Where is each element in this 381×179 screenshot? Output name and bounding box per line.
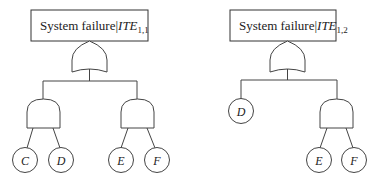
and-gate-1a <box>27 99 60 128</box>
connector <box>27 128 33 148</box>
connector <box>346 128 353 148</box>
fault-tree-diagram: System failure|ITE1,1 C D E F System fai… <box>0 0 381 179</box>
connector <box>147 128 155 148</box>
or-gate-1 <box>72 41 107 72</box>
basic-event-label-d-2: D <box>236 105 246 119</box>
connector <box>121 128 128 148</box>
and-gate-1b <box>121 99 154 128</box>
fault-tree-1: System failure|ITE1,1 C D E F <box>13 10 170 173</box>
connector <box>320 128 327 148</box>
or-gate-2 <box>270 41 305 72</box>
connector <box>53 128 60 148</box>
basic-event-label-c: C <box>21 154 30 168</box>
fault-tree-2: System failure|ITE1,2 D E F <box>229 10 367 173</box>
and-gate-2 <box>320 99 353 128</box>
basic-event-label-e-2: E <box>314 154 323 168</box>
top-event-label-2: System failure|ITE1,2 <box>239 18 348 35</box>
basic-event-label-d: D <box>56 154 66 168</box>
basic-event-label-f-2: F <box>349 154 358 168</box>
basic-event-label-f: F <box>152 154 161 168</box>
basic-event-label-e: E <box>116 154 125 168</box>
top-event-label-1: System failure|ITE1,1 <box>40 18 149 35</box>
